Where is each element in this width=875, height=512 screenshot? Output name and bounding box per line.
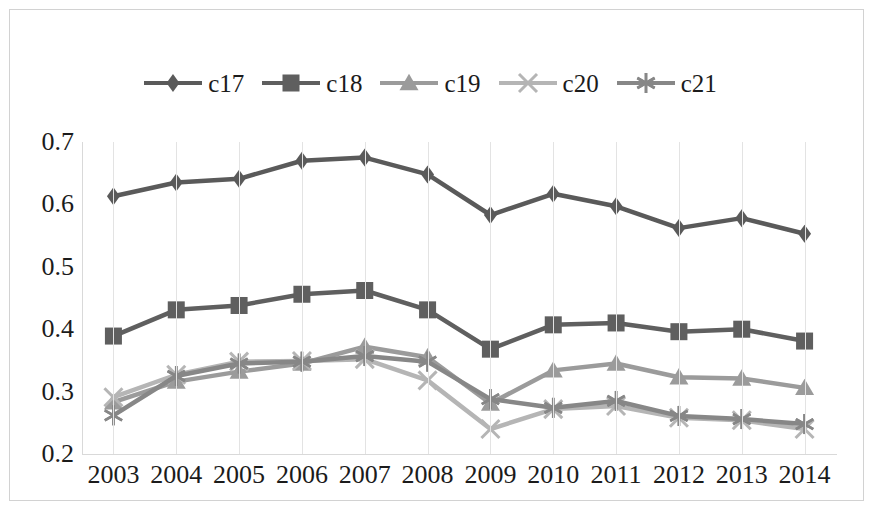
plot-area [82,142,836,454]
y-axis-tick-label: 0.6 [16,191,74,217]
gridline-vertical [302,142,303,454]
legend-label: c20 [557,71,613,96]
gridline-vertical [365,142,366,454]
legend-glyph [396,70,422,96]
y-axis-tick-label: 0.7 [16,129,74,155]
series-c17 [107,149,811,243]
series-c20 [104,350,813,438]
legend-item-c21[interactable]: c21 [615,66,733,100]
gridline-vertical [428,142,429,454]
gridline-vertical [490,142,491,454]
gridline-vertical [553,142,554,454]
legend-marker-x-icon [499,74,557,92]
x-axis-labels: 2003200420052006200720082009201020112012… [82,462,837,498]
gridline-vertical [239,142,240,454]
legend-marker-asterisk-icon [617,74,675,92]
legend-marker-triangle-icon [380,74,438,92]
legend-label: c19 [438,71,494,96]
y-axis-tick-label: 0.5 [16,254,74,280]
gridline-vertical [679,142,680,454]
legend-glyph [278,70,304,96]
series-line-c17 [113,158,804,234]
legend-label: c21 [675,71,731,96]
y-axis-tick-label: 0.2 [16,441,74,467]
legend-glyph [160,70,186,96]
chart-frame: c17c18c19c20c21 0.70.60.50.40.30.2 20032… [9,9,864,501]
x-axis-tick-label: 2014 [765,462,845,488]
y-axis-tick-label: 0.4 [16,316,74,342]
series-line-c21 [113,356,804,424]
gridline-vertical [616,142,617,454]
series-c18 [105,282,813,358]
legend-glyph [633,70,659,96]
legend-label: c18 [320,71,376,96]
chart-legend: c17c18c19c20c21 [10,66,865,100]
series-line-c18 [113,291,804,350]
series-canvas [82,142,836,454]
series-c19 [104,337,814,410]
x-axis-line [82,454,837,455]
gridline-vertical [805,142,806,454]
y-axis-tick-label: 0.3 [16,379,74,405]
series-line-c19 [113,347,804,404]
legend-label: c17 [202,71,258,96]
legend-item-c17[interactable]: c17 [142,66,260,100]
gridline-vertical [742,142,743,454]
legend-glyph [515,70,541,96]
line-chart: c17c18c19c20c21 0.70.60.50.40.30.2 20032… [10,10,865,502]
legend-marker-square-icon [262,74,320,92]
legend-marker-diamond-icon [144,74,202,92]
y-axis-labels: 0.70.60.50.40.30.2 [10,10,74,502]
legend-item-c18[interactable]: c18 [260,66,378,100]
gridline-vertical [176,142,177,454]
legend-item-c20[interactable]: c20 [497,66,615,100]
gridline-vertical [113,142,114,454]
legend-item-c19[interactable]: c19 [378,66,496,100]
